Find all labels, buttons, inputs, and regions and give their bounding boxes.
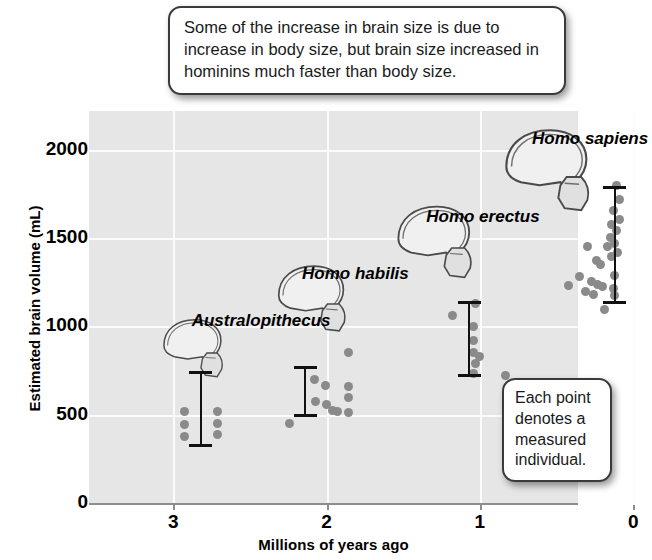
error-bar-line bbox=[200, 372, 202, 444]
data-point bbox=[310, 375, 319, 384]
data-point bbox=[596, 260, 605, 269]
data-point bbox=[180, 420, 189, 429]
x-tick-label-3: 3 bbox=[153, 511, 193, 533]
data-point bbox=[583, 242, 592, 251]
callout-each-point: Each point denotes a measured individual… bbox=[502, 378, 612, 482]
error-bar-cap-upper bbox=[458, 301, 481, 304]
data-point bbox=[213, 407, 222, 416]
x-tick-label-1: 1 bbox=[460, 511, 500, 533]
data-point bbox=[213, 419, 222, 428]
data-point bbox=[285, 419, 294, 428]
error-bar-cap-upper bbox=[189, 371, 212, 374]
data-point bbox=[344, 382, 353, 391]
callout-each-point-text: Each point denotes a measured individual… bbox=[515, 388, 600, 471]
data-point bbox=[311, 397, 320, 406]
error-bar-cap-lower bbox=[189, 444, 212, 447]
error-bar-cap-upper bbox=[294, 366, 317, 369]
species-label-homo-erectus: Homo erectus bbox=[426, 207, 539, 227]
error-bar-cap-lower bbox=[603, 301, 626, 304]
data-point bbox=[564, 281, 573, 290]
error-bar-cap-upper bbox=[603, 186, 626, 189]
data-point bbox=[471, 359, 480, 368]
y-axis-tick-labels: 0500100015002000 bbox=[8, 0, 88, 560]
callout-brain-body-size: Some of the increase in brain size is du… bbox=[168, 6, 566, 95]
data-point bbox=[344, 393, 353, 402]
x-tick-mark-2 bbox=[327, 505, 329, 510]
data-point bbox=[575, 272, 584, 281]
data-point bbox=[333, 407, 342, 416]
species-label-homo-sapiens: Homo sapiens bbox=[532, 129, 648, 149]
callout-brain-body-size-text: Some of the increase in brain size is du… bbox=[184, 17, 550, 83]
data-point bbox=[344, 408, 353, 417]
data-point bbox=[469, 336, 478, 345]
error-bar-line bbox=[468, 302, 470, 375]
data-point bbox=[180, 432, 189, 441]
data-point bbox=[600, 305, 609, 314]
data-point bbox=[615, 195, 624, 204]
data-point bbox=[615, 215, 624, 224]
x-tick-mark-0 bbox=[633, 505, 635, 510]
data-point bbox=[344, 348, 353, 357]
data-point bbox=[213, 430, 222, 439]
data-point bbox=[603, 242, 612, 251]
data-point bbox=[180, 407, 189, 416]
error-bar-line bbox=[614, 187, 616, 302]
data-point bbox=[589, 290, 598, 299]
gridline-x-3 bbox=[173, 111, 175, 503]
data-point bbox=[469, 322, 478, 331]
x-axis-line bbox=[89, 503, 578, 505]
x-tick-mark-1 bbox=[480, 505, 482, 510]
gridline-x-1 bbox=[480, 111, 482, 503]
species-label-australopithecus: Australopithecus bbox=[192, 311, 331, 331]
gridline-y-1500 bbox=[89, 238, 578, 240]
data-point bbox=[321, 381, 330, 390]
species-label-homo-habilis: Homo habilis bbox=[302, 264, 409, 284]
error-bar-cap-lower bbox=[458, 374, 481, 377]
x-axis-title: Millions of years ago bbox=[89, 536, 578, 553]
error-bar-cap-lower bbox=[294, 414, 317, 417]
gridline-x-0 bbox=[633, 111, 635, 503]
data-point bbox=[448, 311, 457, 320]
x-tick-mark-3 bbox=[173, 505, 175, 510]
x-tick-label-2: 2 bbox=[307, 511, 347, 533]
x-tick-label-0: 0 bbox=[613, 511, 652, 533]
data-point bbox=[598, 282, 607, 291]
error-bar-line bbox=[304, 367, 306, 415]
y-axis-title: Estimated brain volume (mL) bbox=[26, 109, 43, 509]
